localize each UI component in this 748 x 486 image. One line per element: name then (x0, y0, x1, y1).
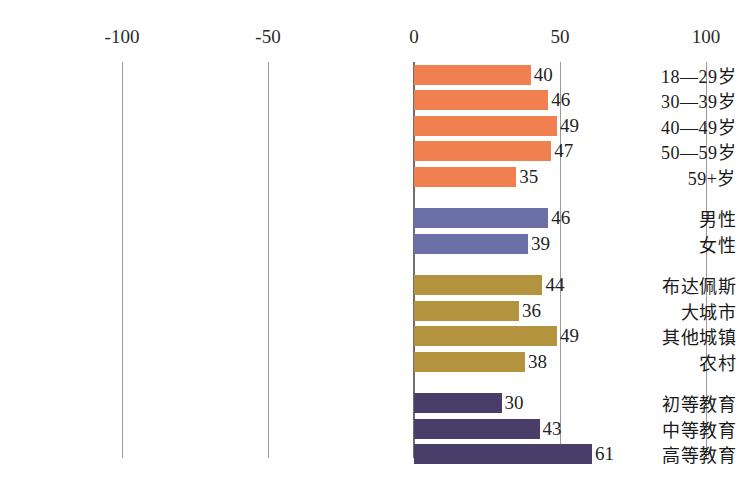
x-tick-label: 0 (409, 26, 419, 48)
bar-row: 30—39岁46 (0, 88, 748, 114)
bar-row: 高等教育61 (0, 442, 748, 468)
bar-row: 中等教育43 (0, 416, 748, 442)
bar-value-label: 36 (519, 300, 541, 322)
bar (414, 275, 542, 295)
bar-value-label: 61 (592, 443, 614, 465)
x-tick-label: 100 (692, 26, 721, 48)
bar-chart: -100-50050100 18—29岁4030—39岁4640—49岁4950… (0, 0, 748, 486)
bar-row: 40—49岁49 (0, 113, 748, 139)
bar (414, 419, 540, 439)
bar (414, 301, 519, 321)
bar-value-label: 35 (516, 166, 538, 188)
bar-value-label: 47 (551, 140, 573, 162)
bar-value-label: 39 (528, 233, 550, 255)
bar (414, 116, 557, 136)
bar (414, 208, 548, 228)
bar-row: 农村38 (0, 349, 748, 375)
bar-row: 50—59岁47 (0, 139, 748, 165)
bar-row: 初等教育30 (0, 391, 748, 417)
bar-row: 布达佩斯44 (0, 273, 748, 299)
bar-value-label: 49 (557, 115, 579, 137)
bar (414, 326, 557, 346)
bar-row: 其他城镇49 (0, 324, 748, 350)
x-axis-tick-labels: -100-50050100 (0, 26, 748, 52)
bar-value-label: 40 (531, 64, 553, 86)
bar-row: 男性46 (0, 206, 748, 232)
bar (414, 352, 525, 372)
bar-row: 大城市36 (0, 298, 748, 324)
bar-value-label: 30 (502, 392, 524, 414)
bar-row: 18—29岁40 (0, 62, 748, 88)
x-tick-label: -100 (105, 26, 140, 48)
bar-rows: 18—29岁4030—39岁4640—49岁4950—59岁4759+岁35男性… (0, 62, 748, 462)
bar (414, 141, 551, 161)
bar-value-label: 46 (548, 89, 570, 111)
bar-value-label: 38 (525, 351, 547, 373)
bar-value-label: 49 (557, 325, 579, 347)
bar-value-label: 44 (542, 274, 564, 296)
bar (414, 167, 516, 187)
bar (414, 234, 528, 254)
x-tick-label: 50 (551, 26, 570, 48)
bar-value-label: 43 (540, 418, 562, 440)
bar (414, 393, 502, 413)
bar-value-label: 46 (548, 207, 570, 229)
bar (414, 65, 531, 85)
bar (414, 90, 548, 110)
bar-row: 59+岁35 (0, 164, 748, 190)
bar (414, 444, 592, 464)
x-tick-label: -50 (255, 26, 280, 48)
bar-row: 女性39 (0, 231, 748, 257)
